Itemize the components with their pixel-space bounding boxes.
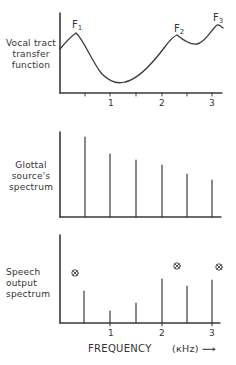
transfer-function-curve <box>60 25 223 83</box>
formant-marker-icon <box>216 264 222 270</box>
x-tick-label: 3 <box>209 328 215 338</box>
formant-marker-icon <box>174 263 180 269</box>
formant-markers <box>72 263 222 276</box>
top-panel <box>60 13 223 96</box>
diagram-canvas: 1 2 3 F1 F2 F3 1 2 3 <box>0 0 236 365</box>
x-tick-label: 2 <box>159 328 165 338</box>
x-tick-label: 1 <box>108 98 114 108</box>
bottom-panel <box>60 235 222 326</box>
formant-marker-icon <box>72 270 78 276</box>
harmonic-bars <box>85 137 212 217</box>
middle-panel <box>60 132 221 217</box>
frequency-axis-title: FREQUENCY <box>88 343 152 354</box>
formant-label-f1: F1 <box>72 19 82 32</box>
output-bars <box>84 279 212 323</box>
x-tick-label: 1 <box>108 328 114 338</box>
frequency-unit-label: (кHz) ⟶ <box>172 343 216 354</box>
x-tick-label: 3 <box>209 98 215 108</box>
x-tick-label: 2 <box>159 98 165 108</box>
formant-label-f3: F3 <box>213 12 223 25</box>
formant-label-f2: F2 <box>174 23 184 36</box>
